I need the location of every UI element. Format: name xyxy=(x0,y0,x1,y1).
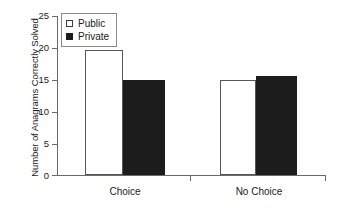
x-category-label-no-choice: No Choice xyxy=(218,186,300,197)
y-tick-label-0: 0 xyxy=(9,170,49,181)
legend-item-private: Private xyxy=(66,30,109,43)
y-tick-label-5: 5 xyxy=(9,138,49,149)
bar-nochoice-private xyxy=(256,76,297,175)
bar-chart: Number of Anagrams Correctly Solved 25 2… xyxy=(0,0,342,218)
legend: Public Private xyxy=(61,13,117,47)
y-tick-label-10: 10 xyxy=(9,106,49,117)
y-tick-label-20: 20 xyxy=(9,42,49,53)
x-tick-separator xyxy=(190,176,191,181)
x-tick-end xyxy=(325,176,326,181)
bar-choice-private xyxy=(123,80,165,175)
legend-label-private: Private xyxy=(78,31,109,42)
x-category-label-choice: Choice xyxy=(85,186,165,197)
legend-item-public: Public xyxy=(66,17,109,30)
legend-label-public: Public xyxy=(78,18,105,29)
legend-swatch-open-square-icon xyxy=(66,20,73,27)
y-tick-label-15: 15 xyxy=(9,74,49,85)
x-axis-line xyxy=(57,175,326,176)
y-axis-line xyxy=(57,16,58,176)
bar-nochoice-public xyxy=(220,80,256,175)
y-tick-label-25: 25 xyxy=(9,10,49,21)
legend-swatch-filled-square-icon xyxy=(66,33,73,40)
bar-choice-public xyxy=(85,50,123,175)
